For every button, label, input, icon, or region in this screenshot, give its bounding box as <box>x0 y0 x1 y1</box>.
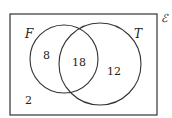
universal-set-label: ℰ <box>161 12 169 25</box>
set-f-label: F <box>24 27 34 41</box>
f-only-count: 8 <box>43 49 50 62</box>
venn-diagram: ℰ F T 8 18 12 2 <box>0 0 172 118</box>
intersection-count: 18 <box>72 56 86 69</box>
set-t-label: T <box>134 27 143 41</box>
outside-count: 2 <box>25 94 32 107</box>
t-only-count: 12 <box>107 65 121 78</box>
